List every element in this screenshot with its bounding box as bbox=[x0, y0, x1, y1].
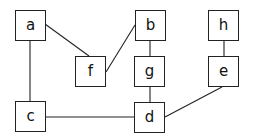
node-f-label: f bbox=[88, 64, 93, 79]
node-c: c bbox=[15, 101, 46, 132]
node-b-label: b bbox=[146, 18, 156, 33]
node-b: b bbox=[135, 10, 166, 41]
edge-b-f bbox=[106, 25, 135, 72]
node-d: d bbox=[134, 102, 165, 133]
node-g: g bbox=[134, 56, 165, 87]
node-h: h bbox=[208, 10, 239, 41]
node-g-label: g bbox=[145, 64, 155, 79]
edge-a-f bbox=[45, 24, 89, 56]
node-a: a bbox=[15, 10, 46, 41]
edge-e-d bbox=[165, 87, 222, 117]
node-e-label: e bbox=[219, 64, 228, 79]
node-h-label: h bbox=[219, 18, 229, 33]
node-c-label: c bbox=[26, 109, 34, 124]
node-f: f bbox=[75, 56, 106, 87]
node-a-label: a bbox=[26, 18, 35, 33]
node-d-label: d bbox=[145, 110, 155, 125]
node-e: e bbox=[208, 56, 239, 87]
